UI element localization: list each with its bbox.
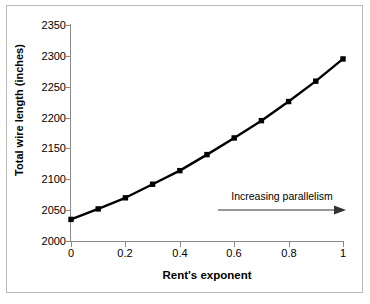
- annotation-label: Increasing parallelism: [216, 190, 348, 202]
- y-axis-tick: [66, 179, 71, 180]
- y-axis-tick-label: 2250: [26, 82, 66, 93]
- x-axis-title: Rent's exponent: [71, 269, 343, 281]
- y-axis-tick-label: 2100: [26, 174, 66, 185]
- x-axis-tick-label: 0: [51, 247, 91, 259]
- y-axis-tick: [66, 118, 71, 119]
- x-axis-line: [70, 241, 344, 242]
- y-axis-tick: [66, 210, 71, 211]
- right-arrow-icon: [216, 204, 348, 216]
- y-axis-tick-label: 2200: [26, 113, 66, 124]
- x-axis-tick-label: 0.6: [214, 247, 254, 259]
- y-axis-tick: [66, 87, 71, 88]
- chart-figure: 2350 2300 2250 2200 2150 2100 2050 2000 …: [0, 0, 370, 304]
- y-axis-tick-label: 2050: [26, 205, 66, 216]
- x-axis-tick-label: 1: [323, 247, 363, 259]
- x-axis-tick-label: 0.2: [105, 247, 145, 259]
- y-axis-tick-label: 2300: [26, 51, 66, 62]
- y-axis-tick-label: 2150: [26, 143, 66, 154]
- y-axis-tick: [66, 148, 71, 149]
- y-axis-tick-label: 2350: [26, 20, 66, 31]
- y-axis-tick: [66, 56, 71, 57]
- x-axis-tick-label: 0.8: [269, 247, 309, 259]
- x-axis-tick-label: 0.4: [160, 247, 200, 259]
- y-axis-tick-label: 2000: [26, 236, 66, 247]
- y-axis-tick: [66, 25, 71, 26]
- annotation-increasing-parallelism: Increasing parallelism: [216, 190, 348, 220]
- y-axis-title: Total wire length (inches): [13, 0, 25, 225]
